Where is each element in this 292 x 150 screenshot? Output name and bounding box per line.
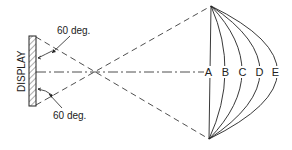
- view-line-top-to-bottom: [36, 37, 209, 139]
- viewing-angle-diagram: A B C D E 60 deg. 60 deg. DISPLAY: [0, 0, 292, 150]
- curve-label-a: A: [205, 66, 213, 78]
- angle-label-top: 60 deg.: [57, 25, 90, 36]
- curve-label-c: C: [239, 66, 247, 78]
- display-panel: [29, 36, 36, 106]
- angle-label-bottom: 60 deg.: [53, 110, 86, 121]
- angle-arc-bottom: [38, 89, 52, 95]
- curve-label-e: E: [272, 66, 279, 78]
- leader-top: [52, 36, 70, 53]
- curve-label-d: D: [256, 66, 264, 78]
- view-line-bottom-to-top: [36, 6, 211, 105]
- curve-label-b: B: [222, 66, 229, 78]
- display-label: DISPLAY: [16, 50, 27, 92]
